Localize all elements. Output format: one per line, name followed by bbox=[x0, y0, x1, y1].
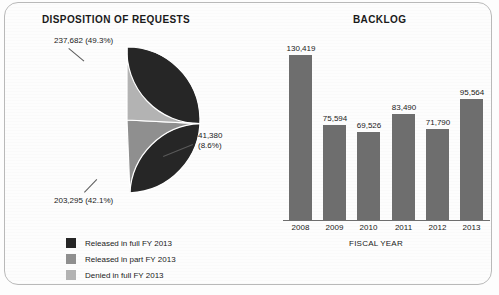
legend-item-released-in-full[interactable]: Released in full FY 2013 bbox=[66, 238, 176, 248]
bar-value-label-2010: 69,526 bbox=[346, 121, 392, 130]
bar-column[interactable]: 95,564 bbox=[460, 36, 483, 221]
bar-2010[interactable] bbox=[357, 132, 380, 221]
bar-2009[interactable] bbox=[323, 125, 346, 221]
pie-label-denied-in-full: 203,295 (42.1%) bbox=[54, 196, 113, 206]
bar-column[interactable]: 83,490 bbox=[392, 36, 415, 221]
bar-chart-panel: BACKLOG 130,41975,59469,52683,49071,7909… bbox=[258, 6, 494, 286]
bar-2011[interactable] bbox=[392, 114, 415, 221]
pie-legend: Released in full FY 2013 Released in par… bbox=[66, 238, 176, 286]
pie-chart-graphic bbox=[49, 42, 205, 198]
figure-container: DISPOSITION OF REQUESTS 237,682 (49.3%) … bbox=[0, 0, 499, 295]
bar-column[interactable]: 75,594 bbox=[323, 36, 346, 221]
legend-label-released-in-part: Released in part FY 2013 bbox=[85, 255, 176, 264]
pie-label-released-in-part: 41,380 (8.6%) bbox=[198, 131, 222, 151]
bar-value-label-2008: 130,419 bbox=[278, 44, 324, 53]
bar-value-label-2012: 71,790 bbox=[415, 118, 461, 127]
legend-swatch-denied-in-full bbox=[66, 270, 76, 280]
pie-svg bbox=[49, 42, 205, 198]
bar-column[interactable]: 69,526 bbox=[357, 36, 380, 221]
bar-2008[interactable] bbox=[289, 55, 312, 221]
bar-column[interactable]: 130,419 bbox=[289, 36, 312, 221]
bar-chart-x-axis-label: FISCAL YEAR bbox=[258, 239, 494, 248]
pie-chart-panel: DISPOSITION OF REQUESTS 237,682 (49.3%) … bbox=[8, 6, 248, 286]
legend-swatch-released-in-full bbox=[66, 238, 76, 248]
legend-swatch-released-in-part bbox=[66, 254, 76, 264]
bar-category-label-2010: 2010 bbox=[349, 223, 389, 232]
legend-label-released-in-full: Released in full FY 2013 bbox=[85, 239, 172, 248]
pie-chart-title: DISPOSITION OF REQUESTS bbox=[42, 14, 190, 25]
bar-chart-x-axis bbox=[283, 220, 490, 221]
bar-chart-plot-area: 130,41975,59469,52683,49071,79095,564 bbox=[283, 36, 489, 221]
pie-label-released-in-part-value: 41,380 bbox=[198, 131, 222, 141]
bar-column[interactable]: 71,790 bbox=[426, 36, 449, 221]
bar-2013[interactable] bbox=[460, 99, 483, 221]
legend-label-denied-in-full: Denied in full FY 2013 bbox=[85, 271, 164, 280]
bar-2012[interactable] bbox=[426, 129, 449, 221]
bar-value-label-2013: 95,564 bbox=[449, 88, 495, 97]
bar-chart-title: BACKLOG bbox=[353, 14, 406, 25]
legend-item-released-in-part[interactable]: Released in part FY 2013 bbox=[66, 254, 176, 264]
legend-item-denied-in-full[interactable]: Denied in full FY 2013 bbox=[66, 270, 176, 280]
pie-label-released-in-full: 237,682 (49.3%) bbox=[54, 36, 113, 46]
bar-category-label-2013: 2013 bbox=[452, 223, 492, 232]
pie-label-released-in-part-percent: (8.6%) bbox=[198, 141, 222, 151]
bar-value-label-2011: 83,490 bbox=[381, 103, 427, 112]
